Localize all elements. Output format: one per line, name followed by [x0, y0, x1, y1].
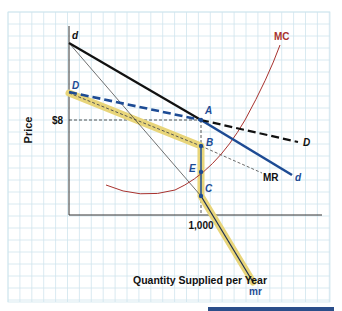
label-MR: MR	[263, 172, 279, 183]
demand-d-black	[69, 43, 201, 120]
axes	[69, 26, 322, 215]
kinked-mr-highlight	[69, 93, 253, 282]
demand-d-blue	[201, 120, 292, 175]
y-axis-label: Price	[22, 117, 34, 144]
label-D-right: D	[303, 137, 310, 148]
label-mr: mr	[249, 286, 262, 297]
y-tick-8: $8	[52, 115, 64, 126]
label-MC: MC	[274, 31, 290, 42]
label-E: E	[189, 163, 196, 174]
point-C	[199, 194, 203, 198]
label-d-top: d	[72, 30, 79, 41]
label-B: B	[206, 137, 213, 148]
point-E	[199, 170, 203, 174]
label-A: A	[204, 105, 212, 116]
x-axis-label: Quantity Supplied per Year	[133, 274, 267, 286]
point-B	[199, 144, 203, 148]
label-C: C	[205, 183, 213, 194]
point-A	[199, 118, 203, 122]
x-tick-1000: 1,000	[188, 220, 213, 231]
label-D-left: D	[72, 80, 79, 91]
mr-thin-line	[69, 43, 201, 196]
grid	[8, 12, 330, 302]
label-d-right: d	[295, 172, 302, 183]
demand-D-black-dashed	[201, 120, 298, 142]
chart-canvas: Price $8 1,000 Quantity Supplied per Yea…	[0, 0, 342, 311]
bottom-bar	[208, 307, 334, 311]
mr-line	[201, 196, 253, 282]
